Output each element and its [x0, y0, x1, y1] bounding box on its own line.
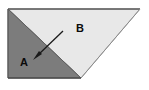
geometry-figure: B A — [0, 0, 149, 90]
region-label-a: A — [20, 56, 28, 68]
region-label-b: B — [76, 22, 84, 34]
figure-container: B A — [0, 0, 149, 90]
